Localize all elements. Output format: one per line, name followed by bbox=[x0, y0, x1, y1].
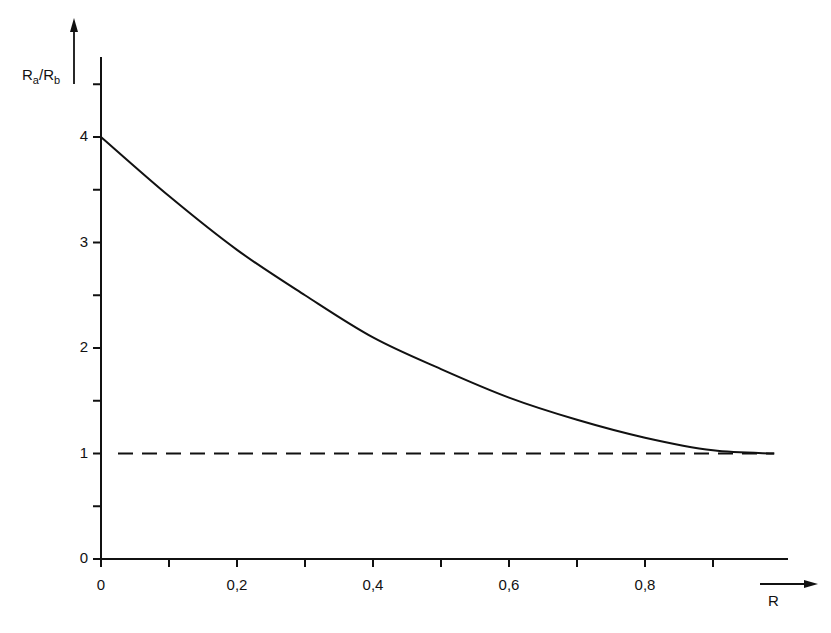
y-label-base-2: R bbox=[43, 66, 54, 83]
y-tick-label: 1 bbox=[70, 444, 88, 461]
y-tick-label: 3 bbox=[70, 233, 88, 250]
x-tick-label: 0,6 bbox=[479, 576, 539, 593]
x-tick-label: 0,4 bbox=[343, 576, 403, 593]
y-axis-label: Ra/Rb bbox=[22, 66, 60, 86]
curve-ra-rb bbox=[101, 137, 774, 454]
x-tick-label: 0,8 bbox=[615, 576, 675, 593]
x-arrow-icon bbox=[760, 580, 818, 588]
y-label-base-1: R bbox=[22, 66, 33, 83]
x-axis-label: R bbox=[768, 592, 779, 609]
y-tick-label: 2 bbox=[70, 338, 88, 355]
chart-canvas bbox=[0, 0, 831, 633]
x-tick-label: 0 bbox=[71, 576, 131, 593]
y-ticks bbox=[93, 84, 101, 559]
x-tick-label: 0,2 bbox=[207, 576, 267, 593]
x-ticks bbox=[101, 559, 713, 567]
y-label-sub-2: b bbox=[54, 74, 60, 86]
y-tick-label: 0 bbox=[70, 549, 88, 566]
y-arrow-icon bbox=[70, 18, 78, 84]
y-tick-label: 4 bbox=[70, 127, 88, 144]
